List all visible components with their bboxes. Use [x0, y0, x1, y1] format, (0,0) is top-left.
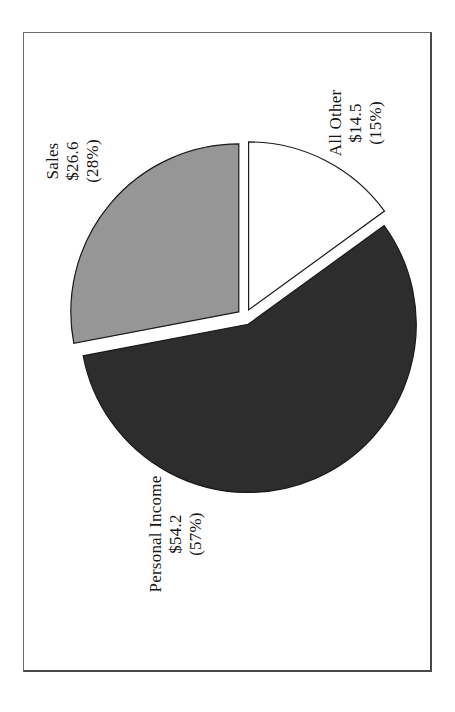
- label-personal-income-value: $54.2: [166, 476, 186, 593]
- label-personal-income-name: Personal Income: [146, 476, 166, 593]
- label-personal-income-percent: (57%): [186, 476, 206, 593]
- label-all-other-percent: (15%): [366, 90, 386, 156]
- label-sales-name: Sales: [43, 139, 63, 182]
- label-all-other-name: All Other: [326, 90, 346, 156]
- label-sales: Sales $26.6 (28%): [43, 139, 103, 182]
- label-sales-percent: (28%): [83, 139, 103, 182]
- label-all-other-value: $14.5: [346, 90, 366, 156]
- label-sales-value: $26.6: [63, 139, 83, 182]
- pie-chart: [0, 0, 455, 712]
- label-personal-income: Personal Income $54.2 (57%): [146, 476, 206, 593]
- label-all-other: All Other $14.5 (15%): [326, 90, 386, 156]
- scanned-page: Sales $26.6 (28%) All Other $14.5 (15%) …: [0, 0, 455, 712]
